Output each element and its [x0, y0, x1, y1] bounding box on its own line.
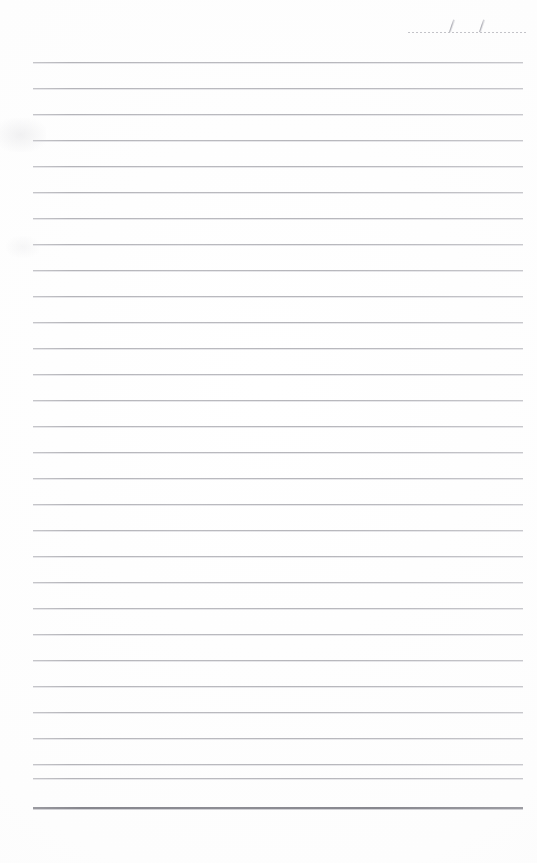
ruled-line[interactable] [33, 400, 523, 401]
ruled-line[interactable] [33, 374, 523, 375]
ruled-line[interactable] [33, 764, 523, 765]
ruled-line[interactable] [33, 634, 523, 635]
ruled-line[interactable] [33, 348, 523, 349]
ruled-line[interactable] [33, 660, 523, 661]
ruled-line[interactable] [33, 426, 523, 427]
ruled-line[interactable] [33, 608, 523, 609]
ruled-line[interactable] [33, 88, 523, 89]
ruled-line[interactable] [33, 556, 523, 557]
ruled-line[interactable] [33, 192, 523, 193]
ruled-line[interactable] [33, 62, 523, 63]
ruled-line[interactable] [33, 244, 523, 245]
bottom-rule [33, 807, 523, 809]
ruled-line[interactable] [33, 582, 523, 583]
ruled-line[interactable] [33, 778, 523, 779]
ruled-line[interactable] [33, 530, 523, 531]
ruled-line[interactable] [33, 712, 523, 713]
notepaper-page [0, 0, 537, 863]
ruled-line[interactable] [33, 452, 523, 453]
ruled-line[interactable] [33, 140, 523, 141]
ruled-line[interactable] [33, 218, 523, 219]
ruled-line[interactable] [33, 478, 523, 479]
ruled-line[interactable] [33, 686, 523, 687]
ruled-line[interactable] [33, 504, 523, 505]
ruled-lines-group [0, 0, 537, 863]
ruled-line[interactable] [33, 270, 523, 271]
ruled-line[interactable] [33, 166, 523, 167]
ruled-line[interactable] [33, 296, 523, 297]
ruled-line[interactable] [33, 738, 523, 739]
ruled-line[interactable] [33, 322, 523, 323]
ruled-line[interactable] [33, 114, 523, 115]
